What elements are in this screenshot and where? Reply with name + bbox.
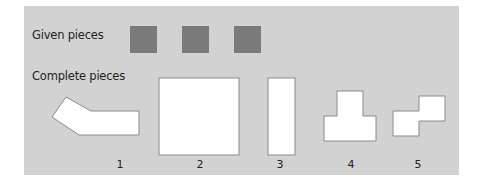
piece-3-shape (268, 78, 295, 155)
piece-number-4: 4 (341, 158, 361, 171)
piece-number-1: 1 (110, 158, 130, 171)
piece-number-2: 2 (190, 158, 210, 171)
piece-4-shape (324, 91, 376, 141)
piece-2-shape (159, 78, 239, 155)
complete-pieces-drawing (0, 0, 483, 183)
piece-5-shape (393, 96, 445, 136)
piece-1-shape (52, 97, 139, 135)
piece-number-3: 3 (270, 158, 290, 171)
piece-number-5: 5 (408, 158, 428, 171)
